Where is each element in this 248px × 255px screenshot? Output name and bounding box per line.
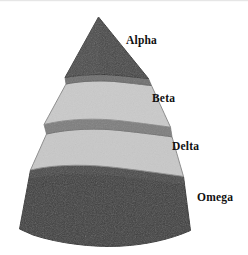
tier-label-alpha: Alpha	[126, 35, 157, 47]
tier-label-delta: Delta	[172, 141, 199, 153]
pyramid-diagram: Alpha Beta Delta Omega	[0, 0, 248, 255]
pyramid-graphic	[0, 0, 248, 255]
scan-top-rule	[0, 0, 248, 1]
tier-label-beta: Beta	[152, 93, 175, 105]
pyramid-tier-omega	[20, 165, 191, 246]
pyramid-tier-alpha	[65, 17, 149, 79]
tier-label-omega: Omega	[197, 192, 233, 204]
